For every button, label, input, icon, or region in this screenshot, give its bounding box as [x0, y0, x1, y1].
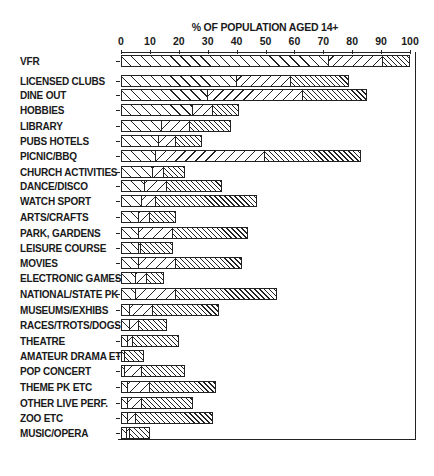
- bar-segment: [125, 351, 143, 361]
- y-tick-mark: [116, 186, 120, 187]
- bar: [121, 272, 164, 284]
- bar-segment: [153, 305, 218, 315]
- bar-segment: [136, 289, 176, 299]
- y-tick-mark: [116, 294, 120, 295]
- bar-segment: [173, 228, 247, 238]
- bar-segment: [122, 56, 329, 66]
- x-tick-label: 50: [260, 35, 272, 47]
- bar-segment: [133, 336, 178, 346]
- x-tick-label: 10: [144, 35, 156, 47]
- category-label: ZOO ETC: [20, 413, 63, 424]
- bar-segment: [193, 105, 213, 115]
- category-label: POP CONCERT: [20, 366, 91, 377]
- y-tick-mark: [116, 418, 120, 419]
- bar: [121, 227, 248, 239]
- category-label: LIBRARY: [20, 121, 63, 132]
- bar-segment: [156, 196, 256, 206]
- x-tick-label: 0: [118, 35, 124, 47]
- bar-segment: [128, 413, 136, 423]
- bar: [121, 350, 144, 362]
- category-label: THEME PK ETC: [20, 382, 92, 393]
- x-axis-line: [121, 52, 411, 53]
- bar-segment: [122, 151, 156, 161]
- bar-segment: [265, 151, 360, 161]
- category-label: RACES/TROTS/DOGS;: [20, 320, 124, 331]
- bar: [121, 427, 150, 439]
- bar: [121, 257, 242, 269]
- category-label: PARK, GARDENS: [20, 228, 101, 239]
- x-tick-label: 70: [317, 35, 329, 47]
- bar-segment: [122, 136, 159, 146]
- y-tick-mark: [116, 201, 120, 202]
- y-tick-mark: [116, 356, 120, 357]
- category-label: MUSIC/OPERA: [20, 428, 88, 439]
- bar-segment: [150, 382, 215, 392]
- bar: [121, 180, 222, 192]
- bar: [121, 304, 219, 316]
- y-tick-mark: [116, 433, 120, 434]
- category-label: MUSEUMS/EXHIBS: [20, 305, 108, 316]
- category-label: CHURCH ACTIVITIES: [20, 167, 117, 178]
- x-tick-label: 90: [375, 35, 387, 47]
- bar-segment: [122, 320, 130, 330]
- bar: [121, 135, 202, 147]
- bar-segment: [329, 56, 384, 66]
- y-tick-mark: [116, 278, 120, 279]
- category-label: VFR: [20, 56, 39, 67]
- x-axis-title: % OF POPULATION AGED 14+: [150, 21, 380, 33]
- bar: [121, 211, 176, 223]
- bar-segment: [136, 413, 212, 423]
- bar-segment: [142, 398, 193, 408]
- bar-segment: [122, 181, 145, 191]
- bar-segment: [122, 121, 162, 131]
- bar-segment: [162, 121, 190, 131]
- y-tick-mark: [116, 95, 120, 96]
- y-tick-mark: [116, 263, 120, 264]
- x-tick-label: 80: [346, 35, 358, 47]
- bar-segment: [237, 76, 291, 86]
- bar: [121, 89, 367, 101]
- y-tick-mark: [116, 233, 120, 234]
- category-label: DANCE/DISCO: [20, 181, 88, 192]
- category-label: HOBBIES: [20, 105, 64, 116]
- y-tick-mark: [116, 172, 120, 173]
- category-label: WATCH SPORT: [20, 196, 91, 207]
- bar-segment: [136, 273, 147, 283]
- category-label: AMATEUR DRAMA ETC: [20, 351, 128, 362]
- bar: [121, 195, 257, 207]
- bar-segment: [153, 167, 164, 177]
- bar-segment: [303, 90, 366, 100]
- y-tick-mark: [116, 387, 120, 388]
- bar-segment: [122, 167, 153, 177]
- y-tick-mark: [116, 341, 120, 342]
- bar: [121, 120, 231, 132]
- bar-segment: [190, 121, 230, 131]
- bar-segment: [164, 167, 184, 177]
- category-label: PICNIC/BBQ: [20, 151, 77, 162]
- y-tick-mark: [116, 110, 120, 111]
- bar: [121, 166, 185, 178]
- bar-segment: [147, 273, 164, 283]
- bar: [121, 150, 361, 162]
- bar-segment: [122, 196, 142, 206]
- bar-segment: [141, 243, 172, 253]
- bar-segment: [128, 382, 151, 392]
- bar: [121, 288, 277, 300]
- y-tick-mark: [116, 371, 120, 372]
- bar: [121, 381, 216, 393]
- bar-segment: [125, 366, 142, 376]
- y-tick-mark: [116, 325, 120, 326]
- y-tick-mark: [116, 248, 120, 249]
- bar: [121, 104, 239, 116]
- bar-segment: [122, 305, 130, 315]
- bar-segment: [130, 320, 138, 330]
- x-tick-label: 40: [231, 35, 243, 47]
- bar-segment: [208, 90, 303, 100]
- bar-segment: [122, 289, 136, 299]
- category-label: OTHER LIVE PERF.: [20, 398, 108, 409]
- category-label: LICENSED CLUBS: [20, 76, 105, 87]
- bar-segment: [139, 320, 167, 330]
- y-tick-mark: [116, 217, 120, 218]
- bar: [121, 55, 410, 67]
- bar-segment: [383, 56, 409, 66]
